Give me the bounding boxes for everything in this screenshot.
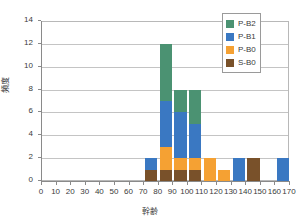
- y-axis-line: [41, 21, 42, 182]
- bar-segment: [160, 44, 172, 101]
- bar-stack: [145, 158, 157, 181]
- bar-stack: [204, 158, 216, 181]
- bar-stack: [189, 90, 201, 181]
- y-tick-label: 0: [3, 176, 33, 184]
- x-tick-mark: [245, 182, 246, 185]
- legend-item: S-B0: [226, 56, 256, 69]
- bar-segment: [277, 158, 289, 181]
- legend-label: P-B1: [238, 33, 256, 41]
- x-tick-mark: [201, 182, 202, 185]
- bar-stack: [174, 90, 186, 181]
- x-tick-label: 170: [279, 188, 299, 196]
- y-tick-label: 10: [3, 62, 33, 70]
- x-tick-mark: [260, 182, 261, 185]
- bar-segment: [189, 158, 201, 169]
- legend-swatch: [226, 20, 234, 28]
- x-tick-mark: [231, 182, 232, 185]
- bar-segment: [145, 158, 157, 169]
- legend-swatch: [226, 33, 234, 41]
- x-tick-mark: [85, 182, 86, 185]
- y-tick-label: 6: [3, 107, 33, 115]
- bar-segment: [247, 158, 259, 181]
- legend-swatch: [226, 59, 234, 67]
- x-tick-mark: [143, 182, 144, 185]
- legend-label: P-B0: [238, 46, 256, 54]
- bar-segment: [189, 90, 201, 124]
- legend-swatch: [226, 46, 234, 54]
- x-tick-mark: [114, 182, 115, 185]
- bar-segment: [218, 170, 230, 181]
- bar-stack: [218, 170, 230, 181]
- bar-segment: [174, 90, 186, 113]
- histogram-chart: 02468101214 0102030405060708090100110120…: [0, 0, 299, 224]
- bar-segment: [233, 158, 245, 181]
- x-tick-mark: [70, 182, 71, 185]
- bar-segment: [174, 170, 186, 181]
- bar-segment: [160, 170, 172, 181]
- legend-label: P-B2: [238, 20, 256, 28]
- bar-stack: [277, 158, 289, 181]
- legend-item: P-B2: [226, 17, 256, 30]
- y-tick-label: 2: [3, 153, 33, 161]
- bar-segment: [204, 158, 216, 181]
- legend-label: S-B0: [238, 59, 256, 67]
- legend-item: P-B0: [226, 43, 256, 56]
- x-tick-mark: [158, 182, 159, 185]
- x-tick-mark: [274, 182, 275, 185]
- legend: P-B2P-B1P-B0S-B0: [222, 13, 261, 73]
- x-axis-title: 幹齢: [0, 205, 299, 216]
- x-tick-mark: [289, 182, 290, 185]
- bar-segment: [160, 101, 172, 147]
- legend-item: P-B1: [226, 30, 256, 43]
- bar-segment: [189, 124, 201, 158]
- x-tick-mark: [187, 182, 188, 185]
- bar-segment: [145, 170, 157, 181]
- x-tick-mark: [56, 182, 57, 185]
- bar-segment: [160, 147, 172, 170]
- x-axis-line: [41, 181, 290, 182]
- x-tick-mark: [216, 182, 217, 185]
- x-tick-mark: [129, 182, 130, 185]
- x-tick-mark: [41, 182, 42, 185]
- y-tick-label: 14: [3, 16, 33, 24]
- bar-stack: [247, 158, 259, 181]
- y-tick-label: 4: [3, 130, 33, 138]
- y-tick-label: 12: [3, 39, 33, 47]
- bar-segment: [174, 112, 186, 158]
- x-tick-mark: [172, 182, 173, 185]
- bar-segment: [174, 158, 186, 169]
- bar-stack: [160, 44, 172, 181]
- x-tick-mark: [99, 182, 100, 185]
- bar-segment: [189, 170, 201, 181]
- y-axis-title: 頻度: [0, 77, 10, 93]
- bar-stack: [233, 158, 245, 181]
